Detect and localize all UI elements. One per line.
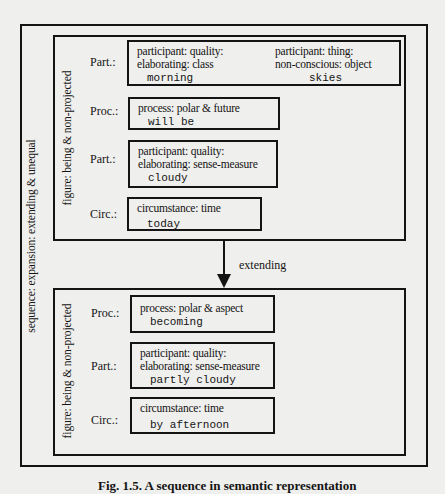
participant-slot: participant: quality: elaborating: sense…	[130, 342, 275, 389]
arrow-down-icon	[217, 274, 231, 288]
figure-caption: Fig. 1.5. A sequence in semantic represe…	[98, 478, 356, 494]
role-label: Proc.:	[90, 104, 118, 119]
feature-text: elaborating: sense-measure	[140, 360, 273, 373]
lexical-item: today	[137, 215, 260, 232]
circumstance-slot: circumstance: time by afternoon	[130, 397, 275, 434]
lexical-item: partly cloudy	[140, 373, 273, 388]
lexical-item: cloudy	[138, 171, 276, 186]
role-label: Proc.:	[91, 306, 119, 321]
role-label: Circ.:	[91, 413, 118, 428]
feature-text: elaborating: sense-measure	[138, 158, 276, 171]
lexical-item: skies	[275, 71, 371, 86]
role-label: Part.:	[90, 152, 116, 167]
participant-slot: participant: quality: elaborating: sense…	[128, 140, 278, 188]
circumstance-slot: circumstance: time today	[127, 197, 262, 231]
arrow-shaft	[223, 240, 225, 276]
figure-label-2: figure: being & non-projected	[61, 291, 73, 451]
role-label: Circ.:	[90, 207, 117, 222]
role-label: Part.:	[91, 359, 117, 374]
figure-label-1: figure: being & non-projected	[61, 58, 73, 218]
feature-text: participant: thing:	[275, 45, 371, 58]
feature-text: process: polar & future	[138, 102, 278, 115]
participant-slot: participant: quality: elaborating: class…	[127, 40, 401, 86]
lexical-item: becoming	[140, 315, 273, 330]
feature-text: circumstance: time	[137, 202, 260, 215]
sequence-label: sequence: expansion: extending & unequal	[25, 121, 37, 351]
relation-label: extending	[239, 258, 286, 273]
feature-text: process: polar & aspect	[140, 300, 273, 315]
feature-text: non-conscious: object	[275, 58, 371, 71]
process-slot: process: polar & aspect becoming	[130, 295, 275, 333]
role-label: Part.:	[90, 55, 116, 70]
feature-text: participant: quality:	[140, 347, 273, 360]
lexical-item: will be	[138, 115, 278, 130]
lexical-item: by afternoon	[140, 415, 273, 433]
process-slot: process: polar & future will be	[128, 97, 280, 130]
feature-text: circumstance: time	[140, 402, 273, 415]
feature-text: participant: quality:	[138, 145, 276, 158]
